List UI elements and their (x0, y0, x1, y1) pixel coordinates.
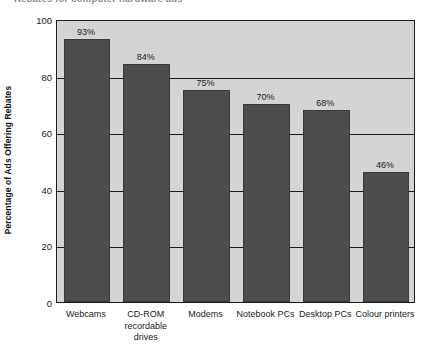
bar (64, 39, 111, 302)
y-tick-label: 100 (18, 15, 52, 26)
y-tick-label: 20 (18, 241, 52, 252)
bar-value-label: 75% (197, 78, 215, 88)
x-label-line: recordable (124, 321, 167, 333)
bar (183, 90, 230, 302)
bar-value-label: 68% (316, 98, 334, 108)
x-label-line: Webcams (66, 309, 106, 321)
x-axis-category-label: Notebook PCs (236, 309, 294, 321)
bar-series (57, 21, 414, 302)
x-label-line: Modems (188, 309, 223, 321)
bar (303, 110, 350, 302)
x-axis-category-label: Webcams (66, 309, 106, 321)
x-label-line: Colour printers (356, 309, 415, 321)
y-axis-title-label: Percentage of Ads Offering Rebates (3, 86, 13, 235)
x-label-line: CD-ROM (124, 309, 167, 321)
x-label-line: Desktop PCs (299, 309, 352, 321)
y-tick-label: 80 (18, 71, 52, 82)
bar (243, 104, 290, 302)
y-tick-label: 0 (18, 298, 52, 309)
bar (123, 64, 170, 302)
y-tick-label: 40 (18, 184, 52, 195)
bar-value-label: 84% (137, 52, 155, 62)
y-axis-ticks: 020406080100 (16, 0, 52, 357)
bar-value-label: 46% (376, 160, 394, 170)
x-axis-category-label: Desktop PCs (299, 309, 352, 321)
bar (363, 172, 410, 302)
y-tick-label: 60 (18, 128, 52, 139)
bar-value-label: 70% (256, 92, 274, 102)
x-label-line: Notebook PCs (236, 309, 294, 321)
y-axis-title: Percentage of Ads Offering Rebates (0, 0, 16, 320)
x-axis-category-label: Colour printers (356, 309, 415, 321)
bar-value-label: 93% (77, 27, 95, 37)
x-axis-category-label: Modems (188, 309, 223, 321)
x-label-line: drives (124, 332, 167, 344)
plot-area (56, 20, 415, 303)
x-axis-category-label: CD-ROMrecordabledrives (124, 309, 167, 344)
